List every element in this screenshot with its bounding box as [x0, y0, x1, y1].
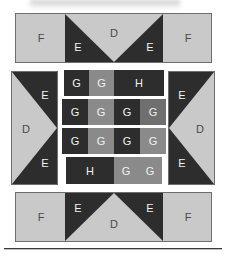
grid-cell-label: G [97, 135, 106, 147]
grid-cell: H [66, 157, 114, 184]
top-strip: F E D E F [15, 13, 212, 63]
grid-cell-label: H [86, 165, 94, 177]
left-panel: E D E [11, 71, 58, 185]
grid-cell-label: G [123, 135, 132, 147]
grid-cell-label: G [71, 135, 80, 147]
grid-cell-label: G [97, 77, 106, 89]
figure-canvas: F E D E F E D E GGHGGGGGGGGHGG E D E F E… [0, 0, 226, 256]
top-strip-right-label: F [185, 33, 192, 44]
bottom-strip: F E D E F [15, 192, 212, 242]
grid-cell: G [114, 99, 140, 125]
grid-cell: G [89, 70, 114, 96]
grid-row: GGH [64, 70, 164, 96]
grid-cell: G [114, 128, 140, 154]
right-panel: E D E [168, 71, 215, 185]
top-strip-inner-left-label: E [74, 42, 81, 53]
grid-cell-label: G [97, 106, 106, 118]
left-panel-bottom-label: E [41, 158, 48, 169]
grid-cell: G [64, 70, 89, 96]
center-grid: GGHGGGGGGGGHGG [62, 70, 166, 186]
bottom-strip-inner-left-label: E [74, 203, 81, 214]
top-strip-left-label: F [38, 33, 45, 44]
grid-cell: G [114, 157, 138, 184]
right-panel-bottom-label: E [178, 158, 185, 169]
grid-cell: G [62, 99, 88, 125]
right-panel-top-label: E [178, 90, 185, 101]
grid-cell: G [140, 128, 166, 154]
top-strip-triangle-label: D [110, 28, 118, 39]
grid-row: HGG [66, 157, 162, 184]
scan-artifact-smudge [30, 0, 180, 9]
grid-cell-label: G [149, 106, 158, 118]
grid-cell-label: G [123, 106, 132, 118]
grid-cell-label: G [72, 77, 81, 89]
bottom-strip-left-label: F [38, 212, 45, 223]
bottom-strip-inner-right-label: E [146, 203, 153, 214]
top-strip-inner-right-label: E [146, 42, 153, 53]
grid-cell: G [140, 99, 166, 125]
grid-cell-label: G [71, 106, 80, 118]
grid-cell: G [88, 128, 114, 154]
grid-cell: H [114, 70, 164, 96]
grid-cell-label: G [122, 165, 131, 177]
grid-cell: G [138, 157, 162, 184]
left-panel-triangle-label: D [22, 124, 30, 135]
left-panel-triangle-d [12, 72, 57, 184]
grid-row: GGGG [62, 128, 166, 154]
right-panel-triangle-d [169, 72, 214, 184]
footer-rule [4, 248, 222, 250]
grid-row: GGGG [62, 99, 166, 125]
grid-cell: G [62, 128, 88, 154]
grid-cell: G [88, 99, 114, 125]
left-panel-top-label: E [41, 90, 48, 101]
grid-cell-label: G [149, 135, 158, 147]
grid-cell-label: G [146, 165, 155, 177]
bottom-strip-triangle-label: D [110, 219, 118, 230]
grid-cell-label: H [135, 77, 143, 89]
right-panel-triangle-label: D [196, 124, 204, 135]
bottom-strip-right-label: F [185, 212, 192, 223]
